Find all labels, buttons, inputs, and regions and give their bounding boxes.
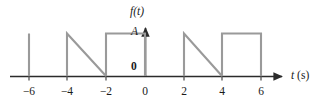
y-axis-label: f(t) — [130, 6, 144, 18]
waveform-pulse-4-to-6 — [222, 34, 261, 77]
x-tick-label-minus-2: −2 — [100, 86, 112, 98]
waveform-ramp-2-to-4 — [184, 34, 222, 77]
x-tick-label-2: 2 — [181, 86, 187, 98]
waveform-ramp-minus-4-to-minus-2 — [67, 34, 106, 77]
x-axis-label: t (s) — [291, 70, 309, 82]
x-axis-unit: (s) — [297, 69, 309, 81]
x-tick-label-4: 4 — [219, 86, 225, 98]
plot-canvas — [0, 0, 322, 109]
amplitude-label: A — [131, 26, 138, 38]
x-tick-label-6: 6 — [258, 86, 264, 98]
waveform-pulse-minus-2-to-0 — [106, 34, 145, 77]
x-tick-label-minus-6: −6 — [23, 86, 35, 98]
waveform-figure: f(t) A 0 t (s) −6 −4 −2 0 2 4 6 — [0, 0, 322, 109]
x-tick-label-minus-4: −4 — [61, 86, 73, 98]
origin-label: 0 — [131, 61, 137, 73]
x-tick-label-0: 0 — [142, 86, 148, 98]
waveform-trace — [29, 34, 261, 77]
